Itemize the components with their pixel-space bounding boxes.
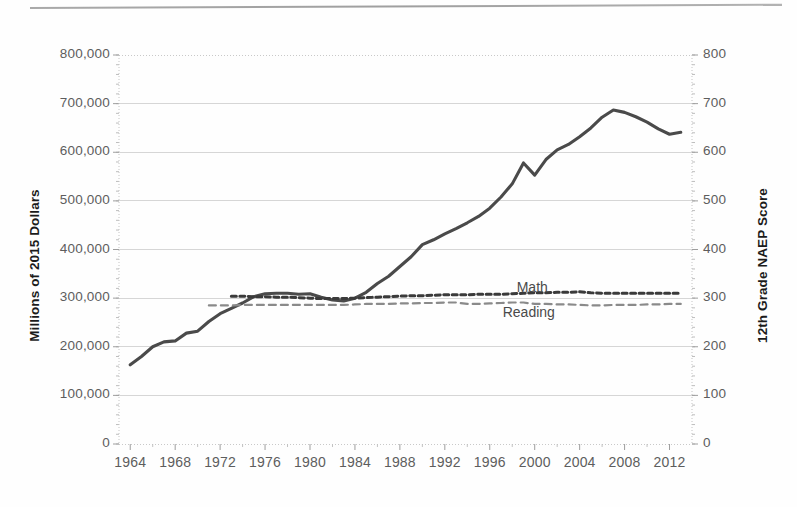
series-label-math: Math	[517, 279, 548, 295]
y-axis-left-tick-label: 800,000	[20, 46, 110, 61]
y-axis-right-title: 12th Grade NAEP Score	[755, 166, 770, 366]
y-axis-right-tick-label: 800	[703, 46, 763, 61]
y-axis-right-tick-label: 0	[703, 435, 763, 450]
y-axis-left-title: Millions of 2015 Dollars	[27, 166, 42, 366]
y-axis-right-tick-label: 100	[703, 386, 763, 401]
y-axis-left-tick-label: 0	[20, 435, 110, 450]
y-axis-left-tick-label: 700,000	[20, 95, 110, 110]
series-line-reading	[209, 303, 681, 306]
chart-svg	[0, 0, 797, 507]
y-axis-right-tick-label: 600	[703, 143, 763, 158]
y-axis-right-tick-label: 700	[703, 95, 763, 110]
chart-page: 800,000700,000600,000500,000400,000300,0…	[0, 0, 797, 507]
series-label-reading: Reading	[503, 304, 555, 320]
y-axis-left-tick-label: 600,000	[20, 143, 110, 158]
x-axis-tick-label: 2012	[640, 454, 700, 470]
series-paths-group	[130, 110, 681, 365]
chart-canvas: 800,000700,000600,000500,000400,000300,0…	[0, 0, 797, 507]
x-tickmarks-group	[130, 444, 669, 450]
series-line-total-spending	[130, 110, 681, 365]
y-axis-left-tick-label: 100,000	[20, 386, 110, 401]
